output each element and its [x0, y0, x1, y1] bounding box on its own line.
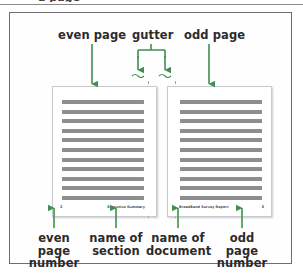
text-line [62, 158, 144, 162]
odd-page-text-lines [180, 100, 262, 206]
even-page-number: 2 [60, 205, 63, 209]
even-page-text-lines [62, 100, 144, 206]
text-line [62, 148, 144, 152]
figure-frame: 2 Executive Summary BroadBand Survey Rep… [9, 12, 292, 264]
text-line [62, 100, 144, 104]
text-line [62, 177, 144, 181]
label-line-2: number [217, 256, 268, 270]
text-line [62, 110, 144, 114]
text-line [180, 110, 262, 114]
text-line [180, 167, 262, 171]
horizontal-rule [0, 4, 303, 5]
text-line [180, 100, 262, 104]
label-line-1: odd page [226, 231, 258, 258]
text-line [180, 119, 262, 123]
callout-label-even-page: even page [58, 28, 126, 42]
label-line-1: even page [38, 231, 70, 258]
text-line [180, 186, 262, 190]
odd-page-footer: BroadBand Survey Report 3 [175, 203, 264, 211]
text-line [180, 138, 262, 142]
callout-label-name-of-document: name of document [146, 232, 210, 257]
label-line-2: number [29, 256, 80, 270]
callout-label-even-page-number: even page number [22, 232, 86, 270]
odd-page-number: 3 [261, 205, 264, 209]
text-line [180, 177, 262, 181]
text-line [180, 196, 262, 200]
cut-off-heading-fragment: a page [0, 0, 303, 2]
callout-label-gutter: gutter [132, 28, 174, 42]
callout-label-name-of-section: name of section [88, 232, 144, 257]
text-line [62, 167, 144, 171]
text-line [180, 148, 262, 152]
text-line [180, 158, 262, 162]
callout-label-odd-page: odd page [184, 28, 245, 42]
text-line [62, 119, 144, 123]
label-line-2: document [146, 244, 211, 258]
odd-page: BroadBand Survey Report 3 [167, 86, 272, 217]
text-line [62, 138, 144, 142]
text-line [62, 196, 144, 200]
label-line-2: section [92, 244, 140, 258]
even-page-footer: 2 Executive Summary [60, 203, 149, 211]
text-line [62, 129, 144, 133]
callout-label-odd-page-number: odd page number [212, 232, 272, 270]
document-name-text: BroadBand Survey Report [179, 205, 229, 209]
text-line [180, 129, 262, 133]
even-page: 2 Executive Summary [52, 86, 157, 217]
section-name-text: Executive Summary [107, 205, 145, 209]
text-line [62, 186, 144, 190]
cut-off-heading-text: a page [38, 0, 80, 2]
